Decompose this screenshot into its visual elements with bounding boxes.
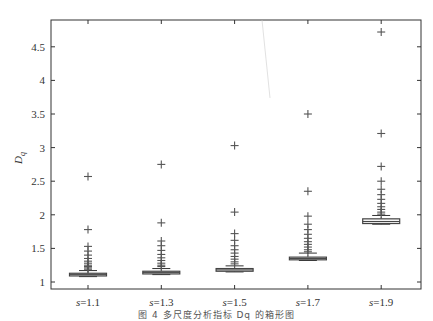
y-tick-label: 2.5	[31, 175, 45, 187]
plot-area: 11.522.533.544.5Dqs=1.1s=1.3s=1.5s=1.7s=…	[12, 20, 421, 308]
figure-caption: 图 4 多尺度分析指标 Dq 的箱形图	[0, 308, 433, 321]
y-tick-label: 4	[40, 74, 46, 86]
x-category-label: s=1.7	[296, 296, 321, 308]
axes-frame	[51, 20, 421, 289]
y-tick-label: 1.5	[31, 242, 45, 254]
x-category-label: s=1.5	[222, 296, 247, 308]
y-tick-label: 3	[40, 142, 46, 154]
y-tick-label: 2	[40, 209, 46, 221]
x-category-label: s=1.3	[149, 296, 174, 308]
y-tick-label: 4.5	[31, 41, 45, 53]
x-category-label: s=1.1	[76, 296, 100, 308]
y-tick-label: 3.5	[31, 108, 45, 120]
y-tick-label: 1	[40, 276, 46, 288]
x-category-label: s=1.9	[369, 296, 394, 308]
y-axis-label: Dq	[12, 152, 27, 165]
scan-artifact	[262, 20, 270, 98]
